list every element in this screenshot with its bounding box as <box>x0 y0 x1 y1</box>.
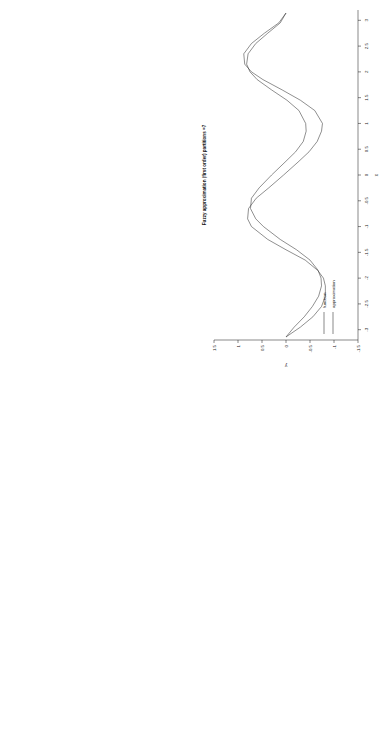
y-tick-label: -1.5 <box>356 344 361 352</box>
x-tick-label: -1 <box>364 224 369 228</box>
y-tick-label: -1 <box>332 344 337 348</box>
y-tick-label: 1.5 <box>212 344 217 351</box>
panel-bottom-left: -3-2.5-2-1.5-1-0.500.511.522.53-1.5-1-0.… <box>196 0 392 374</box>
y-axis-label: y <box>284 363 287 368</box>
plot-bottom-left: -3-2.5-2-1.5-1-0.500.511.522.53-1.5-1-0.… <box>196 0 392 374</box>
figure-canvas: -3-2.5-2-1.5-1-0.500.511.522.53-1.5-1-0.… <box>0 0 392 748</box>
curve-function <box>247 13 322 337</box>
x-tick-label: -0.5 <box>364 196 369 204</box>
x-axis-label: x <box>374 173 379 176</box>
x-tick-label: 1.5 <box>364 94 369 101</box>
x-tick-label: 0.5 <box>364 146 369 153</box>
x-tick-label: 1 <box>364 122 369 125</box>
x-tick-label: 2 <box>364 70 369 73</box>
panel-title: Fuzzy approximation (first order) partit… <box>202 124 207 225</box>
legend-label: function <box>322 292 327 308</box>
curve-approximation <box>244 13 326 337</box>
y-tick-label: 1 <box>236 344 241 347</box>
x-tick-label: 3 <box>364 19 369 22</box>
y-tick-label: 0.5 <box>260 344 265 351</box>
x-tick-label: -2 <box>364 276 369 280</box>
x-tick-label: 0 <box>364 173 369 176</box>
x-tick-label: 2.5 <box>364 42 369 49</box>
x-tick-label: -1.5 <box>364 248 369 256</box>
y-tick-label: -0.5 <box>308 344 313 352</box>
x-tick-label: -3 <box>364 327 369 331</box>
x-tick-label: -2.5 <box>364 300 369 308</box>
y-tick-label: 0 <box>284 344 289 347</box>
legend-label: approximation <box>331 280 336 308</box>
